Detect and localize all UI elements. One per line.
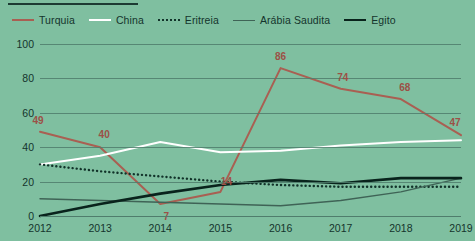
gridline xyxy=(40,113,461,114)
legend-label: Arábia Saudita xyxy=(260,14,330,26)
data-label-turquia: 49 xyxy=(32,114,43,125)
x-axis-tick-label: 2015 xyxy=(209,222,232,234)
data-label-turquia: 86 xyxy=(275,51,286,62)
legend-item-eritreia[interactable]: Eritreia xyxy=(158,14,219,26)
series-line-china xyxy=(40,140,461,164)
x-axis-tick-label: 2016 xyxy=(269,222,292,234)
x-axis-line xyxy=(40,216,461,217)
legend-swatch-icon xyxy=(89,19,111,21)
gridline xyxy=(40,78,461,79)
x-axis-tick-label: 2012 xyxy=(28,222,51,234)
data-label-turquia: 47 xyxy=(449,117,460,128)
series-line-egito xyxy=(40,178,461,216)
data-label-turquia: 68 xyxy=(399,82,410,93)
y-axis-tick-label: 0 xyxy=(28,210,34,222)
legend-item-china[interactable]: China xyxy=(89,14,144,26)
legend-swatch-icon xyxy=(158,19,180,21)
legend-label: Egito xyxy=(371,14,395,26)
x-axis-tick-label: 2013 xyxy=(88,222,111,234)
gridline xyxy=(40,44,461,45)
x-axis-tick-label: 2018 xyxy=(389,222,412,234)
gridline xyxy=(40,182,461,183)
legend-label: Turquia xyxy=(39,14,75,26)
y-axis-tick-label: 80 xyxy=(22,72,34,84)
plot-area: 020406080100494071486746847 xyxy=(40,44,461,216)
x-axis-tick-label: 2019 xyxy=(449,222,472,234)
gridline xyxy=(40,147,461,148)
legend-swatch-icon xyxy=(12,19,34,21)
legend-item-ar-bia-saudita[interactable]: Arábia Saudita xyxy=(233,14,330,26)
legend-label: Eritreia xyxy=(185,14,219,26)
data-label-turquia: 40 xyxy=(99,129,110,140)
legend-item-egito[interactable]: Egito xyxy=(344,14,395,26)
y-axis-tick-label: 40 xyxy=(22,141,34,153)
x-axis-tick-label: 2014 xyxy=(149,222,172,234)
legend-item-turquia[interactable]: Turquia xyxy=(12,14,75,26)
x-axis-labels: 20122013201420152016201720182019 xyxy=(40,222,461,238)
y-axis-tick-label: 20 xyxy=(22,176,34,188)
chart-legend: TurquiaChinaEritreiaArábia SauditaEgito xyxy=(12,12,396,28)
legend-label: China xyxy=(116,14,144,26)
x-axis-tick-label: 2017 xyxy=(329,222,352,234)
top-divider-rule xyxy=(8,3,138,5)
data-label-turquia: 14 xyxy=(221,175,232,186)
legend-swatch-icon xyxy=(233,20,255,21)
legend-swatch-icon xyxy=(344,19,366,21)
data-label-turquia: 74 xyxy=(337,71,348,82)
y-axis-tick-label: 100 xyxy=(16,38,34,50)
